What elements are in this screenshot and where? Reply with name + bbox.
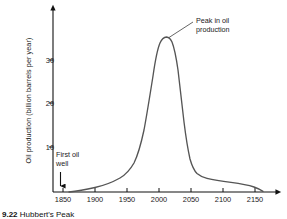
y-tick-label-10: 10 [46,143,54,152]
x-tick-label-2150: 2150 [247,195,263,204]
y-axis-label: Oil production (billion barrels per year… [24,17,33,185]
figure-caption-number: 9.22 [2,210,18,219]
annotation-first-well-line1: First oil [56,150,79,159]
annotation-peak-line2: production [196,25,230,34]
y-tick-label-30: 30 [46,56,54,65]
x-tick-label-2000: 2000 [151,195,167,204]
x-tick-label-1850: 1850 [55,195,71,204]
annotation-first-well-line2: well [56,159,79,168]
annotation-peak: Peak in oil production [196,16,230,34]
chart-canvas [0,0,287,219]
annotation-first-oil-well: First oil well [56,150,79,168]
annotation-peak-line1: Peak in oil [196,16,230,25]
figure-caption: 9.22 Hubbert's Peak [2,210,74,219]
x-tick-label-1950: 1950 [119,195,135,204]
peak-leader-line [169,22,193,38]
x-tick-label-2050: 2050 [183,195,199,204]
y-tick-label-20: 20 [46,99,54,108]
figure-container: Oil production (billion barrels per year… [0,0,287,219]
x-tick-label-2100: 2100 [215,195,231,204]
figure-caption-text: Hubbert's Peak [20,210,74,219]
oil-production-curve [69,37,263,192]
x-tick-label-1900: 1900 [87,195,103,204]
